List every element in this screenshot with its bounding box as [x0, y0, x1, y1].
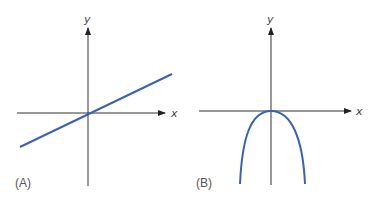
panel-b-label: (B) — [196, 176, 212, 190]
linear-curve — [20, 74, 172, 147]
y-axis-label: y — [83, 13, 91, 26]
panel-a-label: (A) — [15, 176, 31, 190]
panel-a: y x (A) — [15, 13, 178, 190]
x-axis-label: x — [170, 107, 178, 120]
parabola-curve — [240, 111, 305, 184]
panel-b: y x (B) — [196, 13, 363, 190]
figure: y x (A) y x (B) — [0, 0, 376, 201]
x-axis-label: x — [355, 105, 363, 118]
y-axis-label: y — [266, 13, 274, 26]
